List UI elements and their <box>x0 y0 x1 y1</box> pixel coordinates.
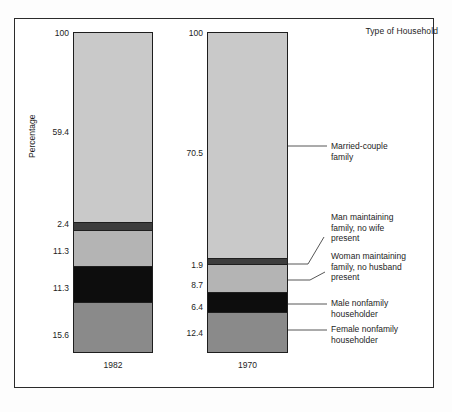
legend-line-1: Male nonfamily <box>331 298 451 309</box>
bar-caption-1982: 1982 <box>73 360 153 370</box>
legend-item-male-nonfamily-householder: Male nonfamily householder <box>331 298 451 319</box>
value-label-1982-married-couple-family: 59.4 <box>29 127 69 137</box>
segment-female-nonfamily-householder-1982[interactable] <box>74 302 152 352</box>
legend-item-woman-maintaining-family: Woman maintaining family, no husband pre… <box>331 251 452 283</box>
legend-line-2: family <box>331 152 451 163</box>
segment-female-nonfamily-householder-1970[interactable] <box>208 312 287 352</box>
legend-line-1: Female nonfamily <box>331 324 451 335</box>
segment-woman-maintaining-family-1982[interactable] <box>74 230 152 266</box>
segment-male-nonfamily-householder-1982[interactable] <box>74 266 152 302</box>
segment-woman-maintaining-family-1970[interactable] <box>208 264 287 292</box>
legend-line-2: family, no husband <box>331 262 452 273</box>
legend-line-3: present <box>331 272 452 283</box>
value-label-1970-female-nonfamily-householder: 12.4 <box>163 328 203 338</box>
segment-male-nonfamily-householder-1970[interactable] <box>208 292 287 312</box>
legend-line-1: Woman maintaining <box>331 251 452 262</box>
legend-item-man-maintaining-family: Man maintaining family, no wife present <box>331 212 451 244</box>
value-label-1982-woman-maintaining-family: 11.3 <box>29 246 69 256</box>
legend-line-1: Man maintaining <box>331 212 451 223</box>
legend-line-3: present <box>331 233 451 244</box>
value-label-1970-male-nonfamily-householder: 6.4 <box>163 302 203 312</box>
legend-line-2: householder <box>331 335 451 346</box>
value-label-1982-man-maintaining-family: 2.4 <box>29 219 69 229</box>
legend-line-2: householder <box>331 309 451 320</box>
segment-married-couple-family-1970[interactable] <box>208 33 287 258</box>
stacked-bar-1982[interactable] <box>73 32 153 353</box>
legend-line-2: family, no wife <box>331 223 451 234</box>
value-label-1982-female-nonfamily-householder: 15.6 <box>29 330 69 340</box>
legend-item-female-nonfamily-householder: Female nonfamily householder <box>331 324 451 345</box>
value-label-1970-man-maintaining-family: 1.9 <box>163 260 203 270</box>
chart-title: Type of Household <box>365 26 438 36</box>
bar-caption-1970: 1970 <box>207 360 288 370</box>
segment-man-maintaining-family-1982[interactable] <box>74 222 152 230</box>
legend-line-1: Married-couple <box>331 141 451 152</box>
value-label-1982-male-nonfamily-householder: 11.3 <box>29 283 69 293</box>
segment-married-couple-family-1982[interactable] <box>74 33 152 222</box>
chart-figure: Type of Household Percentage 1982 100 59… <box>0 0 452 412</box>
stacked-bar-1970[interactable] <box>207 32 288 353</box>
legend-item-married-couple-family: Married-couple family <box>331 141 451 162</box>
value-label-1970-married-couple-family: 70.5 <box>163 148 203 158</box>
value-label-1982-top: 100 <box>29 28 69 38</box>
value-label-1970-woman-maintaining-family: 8.7 <box>163 280 203 290</box>
value-label-1970-top: 100 <box>163 28 203 38</box>
